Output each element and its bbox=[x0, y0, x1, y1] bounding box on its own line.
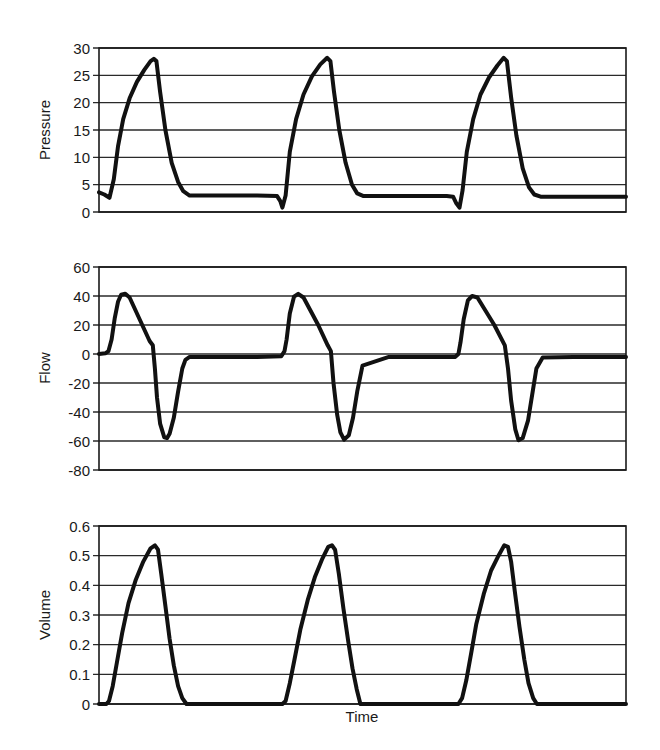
flow-tick-label: -80 bbox=[68, 462, 90, 479]
volume-tick-label: 0.5 bbox=[69, 547, 90, 564]
pressure-tick-label: 0 bbox=[82, 204, 90, 221]
volume-tick-label: 0.6 bbox=[69, 518, 90, 535]
flow-tick-label: -20 bbox=[68, 375, 90, 392]
ventilator-waveforms-figure: 051015202530 -80-60-40-200204060 00.10.2… bbox=[0, 0, 660, 750]
pressure-tick-label: 5 bbox=[82, 176, 90, 193]
volume-tick-label: 0 bbox=[82, 696, 90, 713]
flow-tick-label: -60 bbox=[68, 433, 90, 450]
flow-waveform-line bbox=[99, 294, 626, 441]
pressure-tick-label: 20 bbox=[73, 94, 90, 111]
pressure-chart: 051015202530 bbox=[73, 40, 626, 221]
pressure-axis-label: Pressure bbox=[36, 100, 53, 160]
volume-tick-label: 0.2 bbox=[69, 636, 90, 653]
flow-tick-label: 60 bbox=[73, 259, 90, 276]
volume-tick-label: 0.3 bbox=[69, 607, 90, 624]
time-axis-label: Time bbox=[346, 708, 379, 725]
volume-tick-label: 0.1 bbox=[69, 666, 90, 683]
volume-waveform-line bbox=[99, 545, 626, 704]
pressure-tick-label: 30 bbox=[73, 40, 90, 57]
flow-tick-label: 20 bbox=[73, 317, 90, 334]
volume-chart: 00.10.20.30.40.50.6 bbox=[69, 518, 626, 713]
pressure-tick-label: 15 bbox=[73, 122, 90, 139]
flow-tick-label: 40 bbox=[73, 288, 90, 305]
flow-tick-label: -40 bbox=[68, 404, 90, 421]
flow-chart: -80-60-40-200204060 bbox=[68, 259, 626, 479]
pressure-tick-label: 10 bbox=[73, 149, 90, 166]
volume-tick-label: 0.4 bbox=[69, 577, 90, 594]
flow-axis-label: Flow bbox=[36, 352, 53, 384]
pressure-tick-label: 25 bbox=[73, 67, 90, 84]
flow-tick-label: 0 bbox=[82, 346, 90, 363]
volume-axis-label: Volume bbox=[36, 590, 53, 640]
